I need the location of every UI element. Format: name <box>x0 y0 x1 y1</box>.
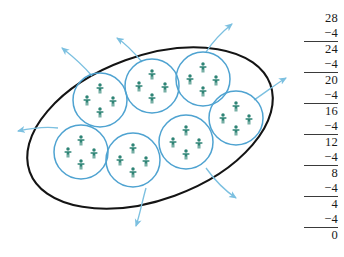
calc-step-11: −4 <box>304 182 338 197</box>
illustration-page: 28 −4 24 −4 20 −4 16 −4 12 −4 8 −4 4 −4 … <box>0 0 344 257</box>
calc-step-10: 8 <box>304 167 338 180</box>
group-circle-3 <box>176 52 230 106</box>
group-circle-2 <box>125 59 179 113</box>
arrow-out-left <box>18 127 58 131</box>
people-group-2 <box>136 69 169 103</box>
arrow-out-top-left <box>62 48 92 76</box>
calc-step-13: −4 <box>304 213 338 228</box>
calc-step-3: −4 <box>304 58 338 73</box>
calc-step-4: 20 <box>304 74 338 87</box>
outward-arrows <box>18 24 286 226</box>
grouping-diagram <box>0 0 292 257</box>
group-circle-1 <box>73 73 127 127</box>
group-circle-5 <box>159 115 213 169</box>
calc-step-1: −4 <box>304 27 338 42</box>
calc-step-7: −4 <box>304 120 338 135</box>
calc-step-0: 28 <box>304 12 338 25</box>
calc-step-12: 4 <box>304 198 338 211</box>
people-group-5 <box>170 125 203 159</box>
calc-step-2: 24 <box>304 43 338 56</box>
diagram-canvas <box>0 0 292 257</box>
group-circle-6 <box>106 133 160 187</box>
arrow-out-bottom <box>136 188 146 226</box>
people-group-3 <box>187 62 220 96</box>
group-circle-7 <box>54 125 108 179</box>
people-group-6 <box>117 143 150 177</box>
calc-step-6: 16 <box>304 105 338 118</box>
calc-step-14: 0 <box>304 229 338 242</box>
calc-step-8: 12 <box>304 136 338 149</box>
people-group-4 <box>220 101 253 135</box>
people-group-1 <box>84 83 117 117</box>
people-group-7 <box>65 135 98 169</box>
group-circle-4 <box>209 91 263 145</box>
calc-step-9: −4 <box>304 151 338 166</box>
repeated-subtraction-column: 28 −4 24 −4 20 −4 16 −4 12 −4 8 −4 4 −4 … <box>296 0 344 257</box>
calc-step-5: −4 <box>304 89 338 104</box>
